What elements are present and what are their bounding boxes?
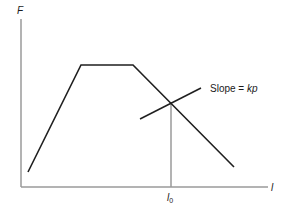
slope-label-prefix: Slope = — [210, 83, 247, 94]
l0-label-subscript: 0 — [169, 197, 173, 204]
force-curve — [28, 65, 234, 172]
l0-label: l0 — [167, 192, 173, 204]
y-axis-label: F — [17, 5, 24, 16]
force-length-diagram: F l Slope = kp l0 — [0, 0, 289, 209]
slope-label: Slope = kp — [210, 83, 258, 94]
x-axis-label: l — [271, 182, 274, 193]
slope-label-value: kp — [247, 83, 258, 94]
